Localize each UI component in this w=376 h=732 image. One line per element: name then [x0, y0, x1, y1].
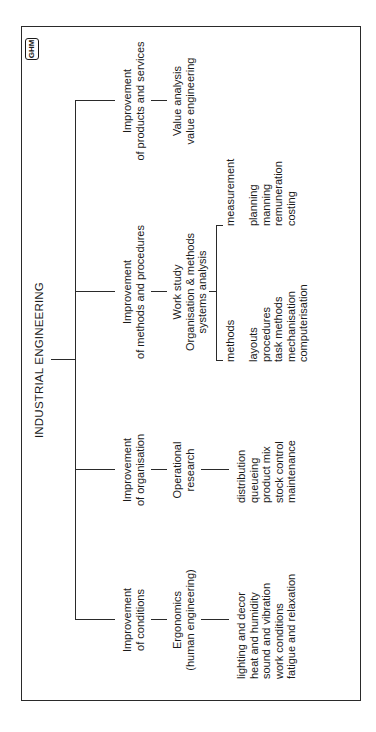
- item-list: lighting and decor heat and humidity sou…: [235, 574, 298, 679]
- connector: [201, 469, 229, 470]
- ghm-logo-icon: GHM: [25, 38, 39, 60]
- technique-line: Organisation & methods: [184, 233, 197, 351]
- list-item: lighting and decor: [235, 574, 248, 679]
- branch-technique: Operational research: [171, 442, 196, 499]
- list-item: procedures: [260, 284, 273, 362]
- branch-technique: Ergonomics (human engineering): [171, 569, 196, 671]
- heading-line: Improvement: [121, 434, 134, 506]
- list-item: layouts: [247, 284, 260, 362]
- technique-line: Value analysis: [171, 58, 184, 145]
- list-item: sound and vibration: [260, 574, 273, 679]
- sub-branch-label: measurement: [224, 159, 237, 226]
- trunk-line: [75, 100, 76, 620]
- item-list: planning manning remuneration costing: [247, 161, 297, 226]
- branch-heading: Improvement of organisation: [121, 434, 146, 506]
- technique-line: systems analysis: [196, 233, 209, 351]
- connector: [201, 619, 229, 620]
- list-item: work conditions: [273, 574, 286, 679]
- technique-line: (human engineering): [184, 569, 197, 671]
- list-item: stock control: [273, 440, 286, 503]
- list-item: remuneration: [272, 161, 285, 226]
- connector: [151, 469, 167, 470]
- heading-line: Improvement: [121, 41, 134, 160]
- branch-technique: Work study Organisation & methods system…: [171, 233, 209, 351]
- title-connector: [51, 359, 75, 360]
- list-item: fatigue and relaxation: [285, 574, 298, 679]
- connector: [151, 100, 167, 101]
- technique-line: research: [184, 442, 197, 499]
- heading-line: Improvement: [121, 225, 134, 359]
- branch-technique: Value analysis value engineering: [171, 58, 196, 145]
- technique-line: Work study: [171, 233, 184, 351]
- sub-bracket: [216, 225, 217, 361]
- connector: [151, 619, 167, 620]
- heading-line: of products and services: [134, 41, 147, 160]
- technique-line: Operational: [171, 442, 184, 499]
- sub-branch-measurement: measurement: [224, 159, 237, 226]
- branch-heading: Improvement of products and services: [121, 41, 146, 160]
- list-item: manning: [260, 161, 273, 226]
- branch-heading: Improvement of methods and procedures: [121, 225, 146, 359]
- list-item: computerisation: [297, 284, 310, 362]
- list-item: costing: [285, 161, 298, 226]
- technique-line: value engineering: [184, 58, 197, 145]
- industrial-engineering-diagram: GHM INDUSTRIAL ENGINEERING Improvement o…: [21, 26, 363, 703]
- heading-line: of organisation: [134, 434, 147, 506]
- list-item: heat and humidity: [248, 574, 261, 679]
- list-item: planning: [247, 161, 260, 226]
- heading-line: of methods and procedures: [134, 225, 147, 359]
- heading-line: Improvement: [121, 588, 134, 652]
- branch-connector-organisation: [75, 469, 115, 470]
- diagram-title: INDUSTRIAL ENGINEERING: [33, 282, 46, 438]
- sub-bracket-tick: [216, 225, 223, 226]
- item-list: distribution queueing product mix stock …: [235, 440, 298, 503]
- branch-connector-methods: [75, 291, 115, 292]
- sub-branch-label: methods: [224, 320, 237, 362]
- item-list: layouts procedures task methods mechanis…: [247, 284, 310, 362]
- heading-line: of conditions: [134, 588, 147, 652]
- sub-branch-methods: methods: [224, 320, 237, 362]
- list-item: product mix: [260, 440, 273, 503]
- branch-heading: Improvement of conditions: [121, 588, 146, 652]
- list-item: task methods: [272, 284, 285, 362]
- branch-connector-products: [75, 100, 115, 101]
- list-item: distribution: [235, 440, 248, 503]
- list-item: maintenance: [285, 440, 298, 503]
- branch-connector-conditions: [75, 619, 115, 620]
- technique-line: Ergonomics: [171, 569, 184, 671]
- sub-bracket-tick: [216, 360, 223, 361]
- list-item: queueing: [248, 440, 261, 503]
- connector: [151, 291, 167, 292]
- list-item: mechanisation: [285, 284, 298, 362]
